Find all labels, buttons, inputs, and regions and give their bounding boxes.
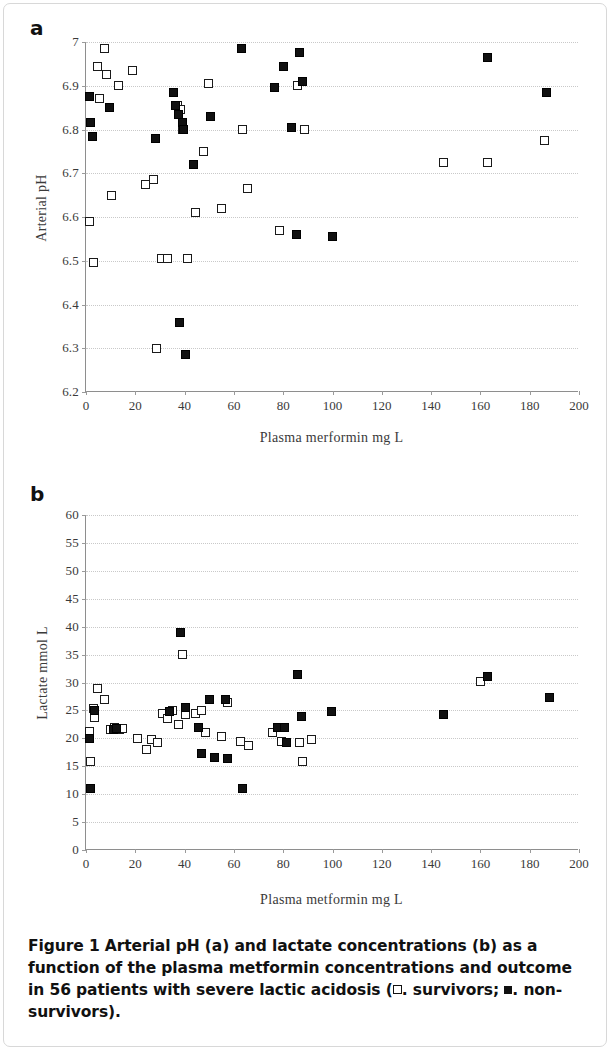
data-point-non-survivors	[542, 88, 551, 97]
y-tick-mark	[82, 42, 86, 43]
data-point-non-survivors	[175, 318, 184, 327]
data-point-non-survivors	[221, 695, 230, 704]
data-point-non-survivors	[238, 784, 247, 793]
data-point-non-survivors	[174, 110, 183, 119]
data-point-survivors	[149, 175, 158, 184]
y-tick-label: 6.5	[62, 253, 79, 269]
legend-open-square-icon	[393, 985, 402, 994]
y-tick-mark	[82, 261, 86, 262]
data-point-survivors	[178, 650, 187, 659]
y-tick-mark	[82, 515, 86, 516]
data-point-survivors	[107, 191, 116, 200]
gridline-horizontal	[86, 822, 578, 823]
data-point-survivors	[244, 741, 253, 750]
data-point-survivors	[152, 344, 161, 353]
data-point-survivors	[93, 684, 102, 693]
x-tick-label: 200	[569, 398, 589, 414]
y-tick-mark	[82, 710, 86, 711]
x-tick-mark	[185, 849, 186, 853]
data-point-non-survivors	[545, 693, 554, 702]
y-tick-mark	[82, 627, 86, 628]
data-point-non-survivors	[292, 230, 301, 239]
panel-a: a 6.26.36.46.56.66.76.86.970204060801001…	[0, 0, 610, 470]
x-tick-mark	[382, 849, 383, 853]
y-tick-label: 20	[66, 730, 79, 746]
x-tick-label: 120	[372, 398, 392, 414]
y-tick-mark	[82, 599, 86, 600]
caption-label: Figure 1	[28, 937, 100, 955]
x-tick-mark	[86, 391, 87, 395]
data-point-non-survivors	[483, 53, 492, 62]
y-tick-label: 45	[66, 591, 79, 607]
x-tick-label: 80	[277, 398, 290, 414]
data-point-survivors	[238, 125, 247, 134]
y-tick-label: 7	[72, 34, 79, 50]
data-point-survivors	[89, 258, 98, 267]
data-point-survivors	[217, 732, 226, 741]
y-tick-label: 40	[66, 619, 79, 635]
y-tick-mark	[82, 543, 86, 544]
data-point-non-survivors	[282, 738, 291, 747]
gridline-horizontal	[86, 515, 578, 516]
data-point-survivors	[275, 226, 284, 235]
data-point-survivors	[183, 254, 192, 263]
y-tick-label: 6.3	[62, 340, 79, 356]
data-point-survivors	[217, 204, 226, 213]
x-tick-mark	[480, 391, 481, 395]
panel-b-letter: b	[30, 482, 44, 506]
panel-a-x-axis-title: Plasma merformin mg L	[85, 430, 578, 446]
data-point-non-survivors	[298, 77, 307, 86]
data-point-non-survivors	[328, 232, 337, 241]
data-point-survivors	[243, 184, 252, 193]
y-tick-label: 6.8	[62, 122, 79, 138]
x-tick-mark	[382, 391, 383, 395]
data-point-survivors	[483, 158, 492, 167]
data-point-survivors	[191, 208, 200, 217]
y-tick-mark	[82, 173, 86, 174]
data-point-non-survivors	[181, 703, 190, 712]
y-tick-label: 6.2	[62, 384, 79, 400]
data-point-non-survivors	[194, 723, 203, 732]
data-point-non-survivors	[189, 160, 198, 169]
data-point-survivors	[300, 125, 309, 134]
x-tick-label: 180	[520, 856, 540, 872]
data-point-non-survivors	[270, 83, 279, 92]
x-tick-label: 200	[569, 856, 589, 872]
gridline-horizontal	[86, 683, 578, 684]
y-tick-label: 6.4	[62, 297, 79, 313]
gridline-horizontal	[86, 627, 578, 628]
y-tick-label: 10	[66, 786, 79, 802]
panel-a-letter: a	[30, 16, 44, 40]
x-tick-label: 40	[178, 398, 191, 414]
data-point-survivors	[102, 70, 111, 79]
x-tick-mark	[185, 391, 186, 395]
data-point-non-survivors	[483, 672, 492, 681]
x-tick-mark	[135, 849, 136, 853]
gridline-horizontal	[86, 305, 578, 306]
x-tick-label: 0	[83, 856, 90, 872]
panel-b-y-axis-title: Lactate mmol L	[35, 608, 51, 738]
y-tick-label: 6.7	[62, 165, 79, 181]
gridline-horizontal	[86, 766, 578, 767]
x-tick-label: 100	[323, 856, 343, 872]
data-point-non-survivors	[237, 44, 246, 53]
gridline-horizontal	[86, 543, 578, 544]
y-tick-mark	[82, 305, 86, 306]
x-tick-label: 80	[277, 856, 290, 872]
x-tick-label: 160	[471, 398, 491, 414]
data-point-non-survivors	[439, 710, 448, 719]
data-point-survivors	[295, 738, 304, 747]
data-point-non-survivors	[90, 706, 99, 715]
panel-a-y-axis-title: Arterial pH	[34, 148, 50, 268]
data-point-survivors	[93, 62, 102, 71]
panel-b: b 05101520253035404550556002040608010012…	[0, 470, 610, 910]
gridline-horizontal	[86, 217, 578, 218]
data-point-survivors	[114, 81, 123, 90]
data-point-survivors	[128, 66, 137, 75]
x-tick-label: 160	[471, 856, 491, 872]
gridline-horizontal	[86, 130, 578, 131]
y-tick-label: 0	[72, 842, 79, 858]
data-point-non-survivors	[181, 350, 190, 359]
panel-b-plot-area: 0510152025303540455055600204060801001201…	[85, 515, 578, 850]
x-tick-mark	[86, 849, 87, 853]
